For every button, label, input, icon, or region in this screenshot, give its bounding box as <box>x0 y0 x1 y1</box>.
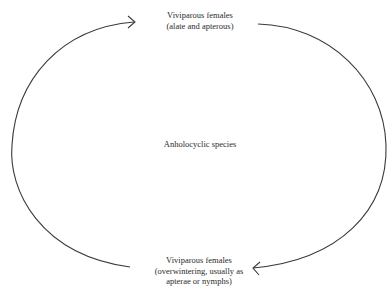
node-viviparous-females-summer: Viviparous females (alate and apterous) <box>150 10 250 31</box>
life-cycle-diagram: Viviparous females (alate and apterous) … <box>0 0 391 291</box>
center-label: Anholocyclic species <box>145 139 255 150</box>
left-arc-arrow <box>12 22 134 267</box>
node-viviparous-females-overwintering: Viviparous females (overwintering, usual… <box>140 255 258 287</box>
node-bottom-line-3: apterae or nymphs) <box>140 276 258 287</box>
node-top-line-1: Viviparous females <box>150 10 250 21</box>
node-top-line-2: (alate and apterous) <box>150 21 250 32</box>
node-bottom-line-2: (overwintering, usually as <box>140 266 258 277</box>
right-arc-arrow <box>253 24 386 268</box>
center-label-text: Anholocyclic species <box>145 139 255 150</box>
node-bottom-line-1: Viviparous females <box>140 255 258 266</box>
